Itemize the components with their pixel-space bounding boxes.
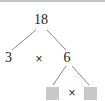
answer-placeholder-left[interactable] [46,87,59,100]
tree-node-left-factor: 3 [0,51,17,65]
tree-node-right-factor: 6 [57,51,77,65]
multiply-icon: × [62,87,82,99]
edge-right-to-leaf-right [72,66,89,85]
multiply-icon: × [28,53,50,65]
edge-root-to-left [12,30,36,50]
tree-node-root: 18 [30,13,52,27]
edge-right-to-leaf-left [53,66,66,85]
edge-root-to-right [47,30,66,50]
answer-placeholder-right[interactable] [84,87,97,100]
factor-tree-diagram: 18 3 6 × × [0,0,105,101]
